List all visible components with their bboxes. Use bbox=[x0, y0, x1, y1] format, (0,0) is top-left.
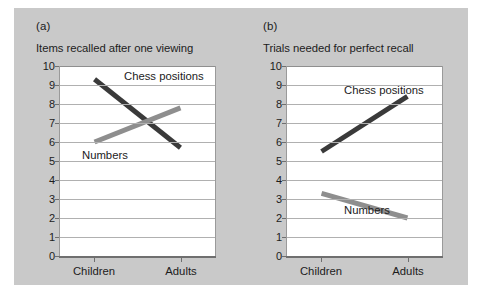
y-tick-label: 2 bbox=[248, 212, 282, 224]
gridline bbox=[60, 104, 215, 105]
y-tick-label: 9 bbox=[248, 79, 282, 91]
x-tick-mark bbox=[321, 257, 322, 262]
gridline bbox=[60, 218, 215, 219]
x-tick-mark bbox=[181, 257, 182, 262]
y-tick-label: 5 bbox=[248, 155, 282, 167]
x-tick-label: Children bbox=[73, 265, 115, 277]
gridline bbox=[60, 161, 215, 162]
gridline bbox=[60, 123, 215, 124]
y-tick-label: 7 bbox=[21, 117, 55, 129]
y-tick-label: 0 bbox=[21, 250, 55, 262]
plot-area-a bbox=[59, 66, 216, 256]
panel-label-b: (b) bbox=[263, 20, 277, 32]
x-tick-label: Adults bbox=[392, 265, 423, 277]
gridline bbox=[287, 199, 442, 200]
y-tick-label: 1 bbox=[248, 231, 282, 243]
y-axis-a: 109876543210 bbox=[14, 66, 55, 256]
y-tick-label: 6 bbox=[248, 136, 282, 148]
panel-label-a: (a) bbox=[36, 20, 50, 32]
gridline bbox=[287, 123, 442, 124]
gridline bbox=[287, 161, 442, 162]
y-tick-label: 9 bbox=[21, 79, 55, 91]
y-tick-label: 8 bbox=[21, 98, 55, 110]
figure-container: (a) Items recalled after one viewing 109… bbox=[0, 0, 482, 292]
panel-title-b: Trials needed for perfect recall bbox=[263, 42, 414, 54]
gridline bbox=[287, 218, 442, 219]
y-tick-label: 4 bbox=[248, 174, 282, 186]
gridline bbox=[287, 142, 442, 143]
chart-panel-b: (b) Trials needed for perfect recall 109… bbox=[241, 8, 468, 285]
chart-panel-a: (a) Items recalled after one viewing 109… bbox=[14, 8, 241, 285]
x-tick-mark bbox=[94, 257, 95, 262]
gridline bbox=[287, 237, 442, 238]
y-axis-b: 109876543210 bbox=[241, 66, 282, 256]
y-tick-label: 10 bbox=[21, 60, 55, 72]
x-tick-label: Children bbox=[300, 265, 342, 277]
y-tick-label: 8 bbox=[248, 98, 282, 110]
gridline bbox=[287, 66, 442, 67]
y-tick-label: 0 bbox=[248, 250, 282, 262]
y-tick-label: 5 bbox=[21, 155, 55, 167]
gridline bbox=[60, 142, 215, 143]
x-tick-label: Adults bbox=[165, 265, 196, 277]
x-axis-line-b bbox=[286, 256, 443, 258]
gridline bbox=[60, 237, 215, 238]
x-tick-mark bbox=[408, 257, 409, 262]
y-tick-label: 7 bbox=[248, 117, 282, 129]
gridline bbox=[60, 180, 215, 181]
y-tick-label: 10 bbox=[248, 60, 282, 72]
y-tick-label: 6 bbox=[21, 136, 55, 148]
series-label-numbers-b: Numbers bbox=[344, 204, 390, 216]
y-tick-label: 3 bbox=[248, 193, 282, 205]
y-tick-label: 2 bbox=[21, 212, 55, 224]
series-label-chess-a: Chess positions bbox=[124, 70, 204, 82]
y-tick-label: 3 bbox=[21, 193, 55, 205]
panel-title-a: Items recalled after one viewing bbox=[36, 42, 193, 54]
gridline bbox=[60, 66, 215, 67]
y-tick-label: 4 bbox=[21, 174, 55, 186]
gridline bbox=[60, 199, 215, 200]
gridline bbox=[60, 85, 215, 86]
series-label-chess-b: Chess positions bbox=[344, 84, 424, 96]
gridline bbox=[287, 104, 442, 105]
x-axis-line-a bbox=[59, 256, 216, 258]
gridline bbox=[287, 180, 442, 181]
y-tick-label: 1 bbox=[21, 231, 55, 243]
series-label-numbers-a: Numbers bbox=[82, 149, 128, 161]
